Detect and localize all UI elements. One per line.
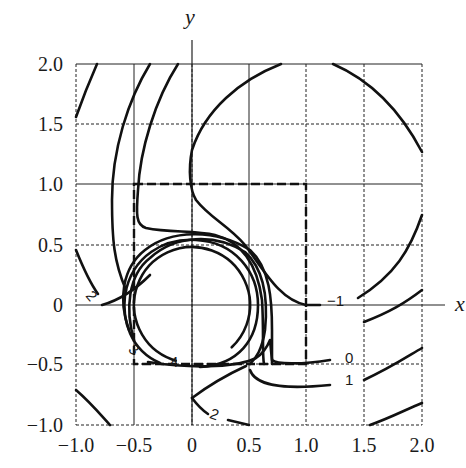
x-tick: −0.5 [116,434,152,456]
x-tick: 0 [187,434,197,456]
contour-circle-right-top [333,64,422,152]
contour-left-inner [137,64,264,364]
y-tick: 1.0 [38,173,63,195]
y-tick: 1.5 [38,113,63,135]
contour-label-2-left: 2 [83,287,101,304]
contour-label-2-bottom: 2 [208,404,222,423]
y-tick: −1.0 [27,414,63,436]
contour-topleft [76,64,97,117]
contour-label-4: 4 [170,353,178,370]
contour-level-1 [250,370,330,387]
y-axis-label: y [183,4,195,29]
x-tick: 1.0 [294,434,319,456]
contour-circle-right-bot [358,215,422,298]
x-tick: 2.0 [410,434,435,456]
contour-right-0 [364,290,422,322]
contour-bottom-2c [228,420,249,425]
contour-circle-3 [124,240,258,367]
contour-bottom-2b [192,398,208,414]
y-tick-labels: 2.0 1.5 1.0 0.5 0 −0.5 −1.0 [27,53,63,436]
x-tick-labels: −1.0 −0.5 0 0.5 1.0 1.5 2.0 [58,434,435,456]
dashed-square-region [134,184,306,364]
x-tick: −1.0 [58,434,94,456]
contour-label-0: 0 [345,349,353,366]
y-tick: −0.5 [27,353,63,375]
y-tick: 0 [53,294,63,316]
x-tick: 0.5 [237,434,262,456]
x-axis-label: x [454,291,465,316]
y-tick: 2.0 [38,53,63,75]
contour-plot: x y −1 0 [0,0,466,468]
y-tick: 0.5 [38,234,63,256]
contour-bottom-2a [192,366,246,398]
contour-right-2 [370,403,422,425]
x-tick: 1.5 [352,434,377,456]
contour-bottomleft [76,390,110,425]
contour-label-minus1: −1 [327,292,344,309]
contour-label-1: 1 [345,371,353,388]
